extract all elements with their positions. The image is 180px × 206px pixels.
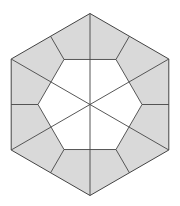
hexagon-diagram	[0, 0, 180, 206]
